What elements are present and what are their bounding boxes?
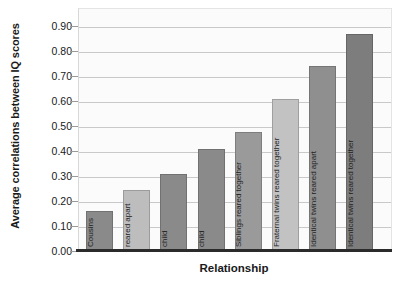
- bar-series: CousinsSiblingsreared apartFoster parent…: [78, 8, 390, 251]
- y-axis-tick-label: 0.50: [52, 120, 72, 132]
- y-axis-tick-mark: [70, 201, 78, 202]
- bar: Identical twins reared apart: [309, 66, 336, 251]
- bar: Fraternal twins reared together: [272, 99, 299, 252]
- y-axis-tick-label: 0.20: [52, 195, 72, 207]
- bar: Biological parent/child: [198, 149, 225, 252]
- y-axis-tick-mark: [70, 101, 78, 102]
- y-axis-tick-label: 0.30: [52, 170, 72, 182]
- y-axis-tick-mark: [70, 26, 78, 27]
- y-axis-tick-mark: [70, 76, 78, 77]
- bar: Siblingsreared apart: [123, 190, 150, 251]
- y-axis-tick-mark: [70, 126, 78, 127]
- y-axis-tick-label: 0.80: [52, 45, 72, 57]
- bar-category-label: Siblings reared together: [235, 132, 244, 247]
- bar-category-label: Siblingsreared apart: [123, 190, 132, 247]
- y-axis-tick-mark: [70, 151, 78, 152]
- y-axis-tick-mark: [70, 176, 78, 177]
- bar-chart-figure: Average correlations between IQ scores 0…: [0, 0, 411, 284]
- bar-category-label: Cousins: [86, 211, 95, 247]
- y-axis-tick-label: 0.90: [52, 20, 72, 32]
- y-axis-tick-label: 0.00: [52, 245, 72, 257]
- bar: Foster parent/child: [160, 174, 187, 252]
- bar-category-label: Fraternal twins reared together: [272, 127, 281, 247]
- y-axis-tick-label: 0.70: [52, 70, 72, 82]
- y-axis-tick-label: 0.60: [52, 95, 72, 107]
- bar: Identical twins reared together: [346, 34, 373, 252]
- x-axis-line: [76, 249, 392, 252]
- y-axis-tick-label: 0.40: [52, 145, 72, 157]
- y-axis-tick-marks: [70, 0, 78, 260]
- bar: Siblings reared together: [235, 132, 262, 251]
- bar-category-label: Biological parent/child: [198, 149, 207, 248]
- y-axis-tick-label: 0.10: [52, 220, 72, 232]
- y-axis-title-text: Average correlations between IQ scores: [9, 23, 21, 229]
- bar-category-label: Identical twins reared together: [346, 127, 355, 247]
- y-axis-title: Average correlations between IQ scores: [0, 0, 30, 251]
- x-axis-title: Relationship: [78, 262, 390, 274]
- y-axis-tick-mark: [70, 226, 78, 227]
- bar: Cousins: [86, 211, 113, 251]
- bar-category-label: Identical twins reared apart: [309, 127, 318, 247]
- y-axis-tick-mark: [70, 51, 78, 52]
- bar-category-label: Foster parent/child: [160, 174, 169, 248]
